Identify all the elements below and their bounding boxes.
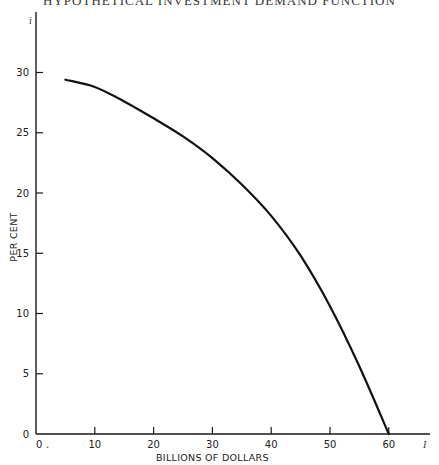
x-tick-label: 40 (265, 439, 278, 450)
y-tick-label: 20 (16, 188, 29, 199)
x-tick-label: 50 (324, 439, 337, 450)
y-axis-label: PER CENT (8, 212, 19, 261)
x-tick-label: 30 (206, 439, 219, 450)
y-tick-label: 10 (16, 308, 29, 319)
x-tick-label: 10 (88, 439, 101, 450)
x-axis-label: BILLIONS OF DOLLARS (156, 452, 269, 463)
chart-plot: 0510152025300102030405060.iIBILLIONS OF … (0, 0, 439, 465)
y-tick-label: 25 (16, 127, 29, 138)
y-tick-label: 30 (16, 67, 29, 78)
x-axis-end-mark: I (422, 439, 427, 450)
x-tick-label: 0 (36, 439, 42, 450)
x-tick-label: 20 (147, 439, 160, 450)
axis-dot-mark: . (46, 439, 49, 450)
y-tick-label: 5 (23, 368, 29, 379)
y-tick-label: 0 (23, 429, 29, 440)
x-tick-label: 60 (382, 439, 395, 450)
investment-demand-curve (65, 80, 388, 434)
y-axis-end-mark: i (29, 15, 32, 26)
